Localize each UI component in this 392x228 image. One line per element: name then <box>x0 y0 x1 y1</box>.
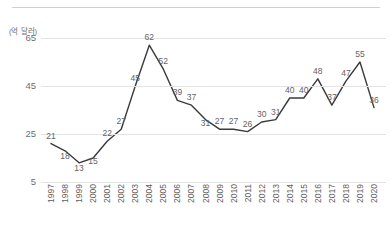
data-point-label: 40 <box>285 86 294 95</box>
data-point-label: 55 <box>355 50 364 59</box>
x-axis-tick-label: 2018 <box>341 184 351 203</box>
x-axis-tick-label: 1998 <box>60 184 70 203</box>
y-axis: 5254565 <box>9 38 36 182</box>
y-axis-tick-label: 65 <box>25 33 36 43</box>
data-point-label: 62 <box>145 33 154 42</box>
x-axis-tick-label: 2016 <box>313 184 323 203</box>
data-point-label: 26 <box>243 120 252 129</box>
gridline <box>41 182 386 183</box>
data-point-label: 52 <box>159 57 168 66</box>
x-axis-tick-label: 1997 <box>46 184 56 203</box>
gridline <box>41 38 386 39</box>
data-point-label: 48 <box>313 67 322 76</box>
gridline <box>41 134 386 135</box>
x-axis-tick-label: 2017 <box>327 184 337 203</box>
data-point-label: 27 <box>229 117 238 126</box>
data-point-label: 47 <box>341 69 350 78</box>
data-point-label: 37 <box>327 93 336 102</box>
x-axis-tick-label: 2005 <box>158 184 168 203</box>
x-axis-tick-label: 2010 <box>229 184 239 203</box>
x-axis-tick-label: 2009 <box>215 184 225 203</box>
plot-area: 2118131522274562523937312727263031404048… <box>41 38 386 182</box>
data-point-label: 39 <box>173 88 182 97</box>
x-axis-tick-label: 2000 <box>88 184 98 203</box>
y-axis-tick-label: 25 <box>25 129 36 139</box>
x-axis-tick-label: 2002 <box>116 184 126 203</box>
x-axis-tick-label: 2004 <box>144 184 154 203</box>
x-axis-tick-label: 2013 <box>271 184 281 203</box>
y-axis-tick-label: 5 <box>31 177 36 187</box>
x-axis-tick-label: 2014 <box>285 184 295 203</box>
x-axis-tick-label: 2012 <box>257 184 267 203</box>
x-axis-tick-label: 2001 <box>102 184 112 203</box>
data-point-label: 27 <box>116 117 125 126</box>
data-point-label: 27 <box>215 117 224 126</box>
data-point-label: 36 <box>369 96 378 105</box>
x-axis-tick-label: 2015 <box>299 184 309 203</box>
x-axis: 1997199819992000200120022003200420052006… <box>41 184 386 226</box>
x-axis-tick-label: 1999 <box>74 184 84 203</box>
x-axis-tick-label: 2011 <box>243 184 253 202</box>
data-point-label: 31 <box>201 119 210 128</box>
top-divider-rule <box>12 7 380 8</box>
data-point-label: 45 <box>131 74 140 83</box>
x-axis-tick-label: 2003 <box>130 184 140 203</box>
x-axis-tick-label: 2019 <box>355 184 365 203</box>
y-axis-tick-label: 45 <box>25 81 36 91</box>
data-point-label: 21 <box>46 132 55 141</box>
data-point-label: 18 <box>60 152 69 161</box>
data-point-label: 40 <box>299 86 308 95</box>
line-chart: (억 달러) 5254565 2118131522274562523937312… <box>0 0 392 228</box>
x-axis-tick-label: 2008 <box>201 184 211 203</box>
data-point-label: 30 <box>257 110 266 119</box>
data-point-label: 31 <box>271 108 280 117</box>
data-point-label: 15 <box>88 157 97 166</box>
gridline <box>41 86 386 87</box>
x-axis-tick-label: 2020 <box>369 184 379 203</box>
x-axis-tick-label: 2007 <box>186 184 196 203</box>
data-point-label: 13 <box>74 164 83 173</box>
x-axis-tick-label: 2006 <box>172 184 182 203</box>
data-point-label: 22 <box>102 129 111 138</box>
data-point-label: 37 <box>187 93 196 102</box>
